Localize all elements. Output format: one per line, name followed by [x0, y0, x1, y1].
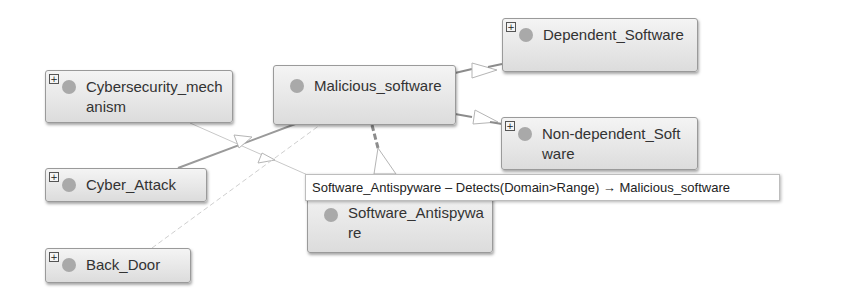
- node-label: Cybersecurity_mechanism: [86, 77, 224, 117]
- expand-plus-icon[interactable]: +: [505, 121, 515, 131]
- node-label: Cyber_Attack: [86, 175, 198, 195]
- node-label: Software_Antispyware: [348, 203, 484, 243]
- node-cyber-attack[interactable]: + Cyber_Attack: [45, 168, 207, 202]
- node-label: Non-dependent_Software: [542, 124, 689, 164]
- node-cybersecurity-mechanism[interactable]: + Cybersecurity_mechanism: [45, 70, 233, 123]
- class-dot-icon: [324, 208, 338, 222]
- node-non-dependent-software[interactable]: + Non-dependent_Software: [501, 117, 698, 170]
- node-label: Dependent_Software: [543, 25, 689, 45]
- edge-antispyware-detects-malicious[interactable]: [372, 125, 396, 174]
- class-dot-icon: [62, 178, 76, 192]
- expand-plus-icon[interactable]: +: [506, 22, 516, 32]
- edge-tooltip: Software_Antispyware – Detects(Domain>Ra…: [305, 174, 780, 201]
- node-back-door[interactable]: + Back_Door: [45, 248, 191, 283]
- class-dot-icon: [518, 127, 532, 141]
- class-dot-icon: [62, 258, 76, 272]
- node-dependent-software[interactable]: + Dependent_Software: [502, 18, 698, 72]
- expand-plus-icon[interactable]: +: [49, 172, 59, 182]
- node-label: Malicious_software: [314, 76, 447, 96]
- node-malicious-software[interactable]: Malicious_software: [273, 65, 456, 125]
- edge-malicious-to-dependent[interactable]: [455, 63, 502, 78]
- ontology-graph-canvas[interactable]: + Cybersecurity_mechanism Malicious_soft…: [0, 0, 850, 307]
- expand-plus-icon[interactable]: +: [49, 252, 59, 262]
- class-dot-icon: [519, 28, 533, 42]
- edge-cybersecurity-to-antispyware[interactable]: [190, 123, 310, 176]
- edge-malicious-to-nondependent[interactable]: [455, 110, 502, 124]
- class-dot-icon: [62, 80, 76, 94]
- node-label: Back_Door: [86, 255, 182, 275]
- class-dot-icon: [290, 79, 304, 93]
- expand-plus-icon[interactable]: +: [49, 74, 59, 84]
